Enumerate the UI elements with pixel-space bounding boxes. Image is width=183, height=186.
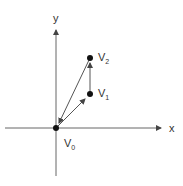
y-axis-label: y <box>53 13 59 24</box>
point-v2 <box>87 55 93 61</box>
point-v0 <box>53 125 59 131</box>
label-v2: V2 <box>98 52 109 65</box>
vector-v0-v1 <box>57 99 85 127</box>
label-v0: V0 <box>64 138 75 151</box>
label-v1: V1 <box>98 88 109 101</box>
vector-diagram <box>0 0 183 186</box>
x-axis-label: x <box>169 123 175 134</box>
vector-v2-v0 <box>59 60 89 123</box>
point-v1 <box>87 91 93 97</box>
